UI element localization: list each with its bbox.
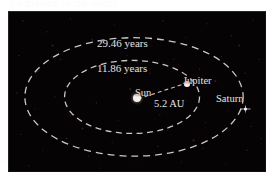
saturn-period-label: 29.46 years (97, 37, 148, 49)
jupiter-label: Jupiter (183, 75, 212, 86)
sun-label: Sun (135, 87, 151, 98)
saturn-body (240, 105, 251, 113)
orbit-diagram-figure: 29.46 years 11.86 years Jupiter Sun 5.2 … (8, 11, 266, 172)
ghost-caption: A SCHEMATIC OF THE ORBITS (9, 0, 129, 9)
saturn-label: Saturn (216, 93, 243, 104)
jupiter-period-label: 11.86 years (97, 62, 147, 74)
distance-label: 5.2 AU (154, 98, 184, 109)
figure-page: A SCHEMATIC OF THE ORBITS (0, 0, 274, 186)
